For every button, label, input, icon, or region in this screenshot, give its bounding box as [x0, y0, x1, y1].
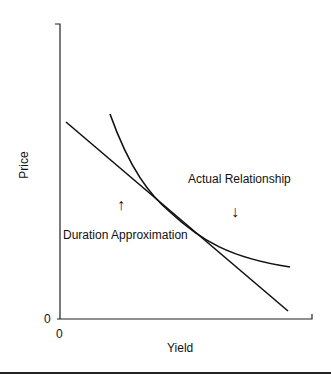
- y-zero-label: 0: [44, 312, 51, 326]
- bottom-rule: [0, 372, 331, 374]
- x-axis-label: Yield: [167, 341, 193, 355]
- actual-relationship-label: Actual Relationship: [188, 172, 291, 186]
- actual-relationship-curve: [110, 114, 290, 267]
- y-axis-label: Price: [17, 151, 31, 178]
- up-arrow-icon: ↑: [117, 197, 125, 213]
- y-axis: [55, 24, 60, 319]
- duration-approximation-label: Duration Approximation: [63, 228, 188, 242]
- duration-approximation-line: [66, 122, 288, 311]
- down-arrow-icon: ↓: [231, 204, 239, 220]
- x-zero-label: 0: [56, 327, 63, 341]
- x-axis: [57, 314, 312, 319]
